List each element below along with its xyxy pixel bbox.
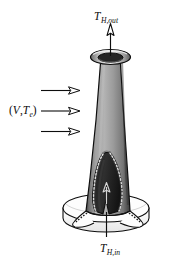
crossflow-arrow-1 xyxy=(41,87,80,94)
svg-text:TH,out: TH,out xyxy=(94,10,119,25)
label-inlet: TH,in xyxy=(100,242,120,257)
label-outlet: TH,out xyxy=(94,10,119,25)
crossflow-arrow-2 xyxy=(41,107,80,114)
label-crossflow: (V,Te) xyxy=(9,104,37,119)
crossflow-arrows xyxy=(41,87,80,135)
figure-canvas: TH,out TH,in (V,Te) xyxy=(0,0,171,259)
crossflow-close-paren: ) xyxy=(33,104,37,117)
svg-text:TH,in: TH,in xyxy=(100,242,120,257)
outlet-subscript: H,out xyxy=(100,16,119,25)
heat-exchanger-figure: TH,out TH,in (V,Te) xyxy=(0,0,171,259)
svg-text:(V,Te): (V,Te) xyxy=(9,104,37,119)
crossflow-arrow-3 xyxy=(41,128,80,135)
inlet-subscript: H,in xyxy=(106,248,120,257)
